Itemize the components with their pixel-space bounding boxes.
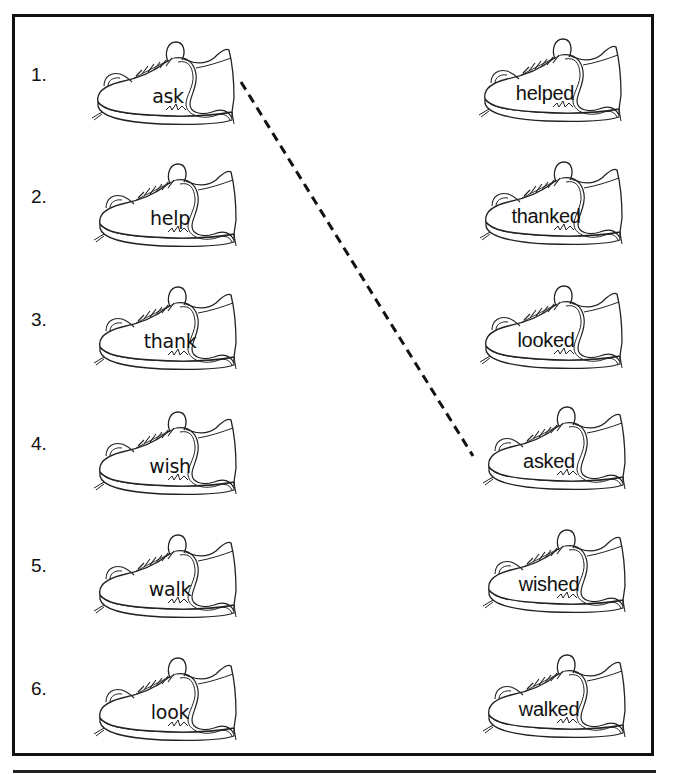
sneaker-icon [481,653,629,741]
item-number-2: 2. [31,186,47,208]
left-word: look [116,701,224,723]
item-number-1: 1. [31,64,47,86]
sneaker-icon [92,410,240,498]
left-shoe-help[interactable]: help [92,162,240,250]
left-shoe-wish[interactable]: wish [92,410,240,498]
item-number-3: 3. [31,309,47,331]
left-shoe-thank[interactable]: thank [92,285,240,373]
bottom-rule [13,770,656,773]
left-word: wish [116,455,224,477]
right-word: looked [492,329,600,352]
sneaker-icon [92,285,240,373]
right-word: thanked [492,205,600,228]
sneaker-icon [478,160,626,248]
sneaker-icon [92,656,240,744]
right-word: helped [491,82,599,105]
item-number-6: 6. [31,678,47,700]
sneaker-icon [478,284,626,372]
left-shoe-look[interactable]: look [92,656,240,744]
sneaker-icon [477,37,625,125]
right-word: wished [495,573,603,596]
sneaker-icon [481,405,629,493]
sneaker-icon [481,528,629,616]
sneaker-icon [92,162,240,250]
left-word: walk [116,578,224,600]
right-shoe-helped[interactable]: helped [477,37,625,125]
right-shoe-looked[interactable]: looked [478,284,626,372]
left-shoe-ask[interactable]: ask [90,40,238,128]
left-shoe-walk[interactable]: walk [92,533,240,621]
left-word: thank [116,330,224,352]
right-word: asked [495,450,603,473]
right-word: walked [495,698,603,721]
left-word: ask [114,85,222,107]
right-shoe-wished[interactable]: wished [481,528,629,616]
sneaker-icon [90,40,238,128]
item-number-5: 5. [31,555,47,577]
left-word: help [116,207,224,229]
right-shoe-walked[interactable]: walked [481,653,629,741]
sneaker-icon [92,533,240,621]
item-number-4: 4. [31,433,47,455]
right-shoe-thanked[interactable]: thanked [478,160,626,248]
right-shoe-asked[interactable]: asked [481,405,629,493]
